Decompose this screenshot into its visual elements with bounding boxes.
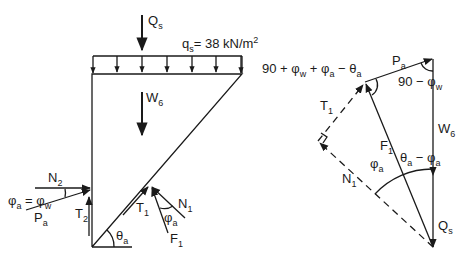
polygon-bottom-angle-label: θa − φa (400, 150, 441, 168)
polygon-friction-label: φa (370, 156, 383, 174)
weight-label: W6 (146, 90, 163, 108)
wall-shear-label: T2 (75, 206, 88, 224)
slip-plane-angle-label: θa (116, 228, 128, 246)
slip-normal-label: N1 (178, 196, 192, 214)
slip-resultant-label: F1 (170, 231, 183, 249)
distributed-load-label: qs= 38 kN/m2 (182, 35, 258, 54)
polygon-slip-shear (318, 85, 363, 141)
wall-friction-arc (65, 189, 66, 197)
bottom-angle-arc (375, 169, 433, 194)
wedge-force-diagram: Qs qs= 38 kN/m2 W6 N2 Pa φa = φw (0, 0, 470, 262)
top-left-angle-label: 90 + φw + φa − θa (262, 61, 362, 79)
polygon-surcharge-label: Qs (438, 218, 453, 236)
wall-normal-label: N2 (48, 170, 62, 188)
distributed-load-block (93, 56, 242, 73)
slip-friction-arc (160, 206, 173, 209)
polygon-slip-resultant-label: F1 (380, 138, 393, 156)
top-right-angle-arc (421, 63, 433, 71)
slip-friction-label: φa (164, 210, 177, 228)
top-right-angle-label: 90 − φw (398, 74, 443, 92)
polygon-weight-label: W6 (438, 121, 455, 139)
slip-shear-label: T1 (136, 200, 149, 218)
polygon-slip-shear-label: T1 (320, 98, 333, 116)
polygon-slip-normal-label: N1 (342, 171, 356, 189)
surcharge-label: Qs (148, 13, 163, 31)
right-angle-mark (321, 133, 327, 143)
soil-wedge: Qs qs= 38 kN/m2 W6 N2 Pa φa = φw (8, 13, 258, 249)
slip-plane-angle-arc (107, 230, 114, 247)
force-polygon: Pa W6 Qs F1 N1 T1 90 + φw + φa − θa 90 −… (262, 53, 455, 247)
active-force-label: Pa (34, 210, 48, 228)
polygon-active-force-label: Pa (392, 53, 406, 71)
top-left-angle-arc (372, 79, 378, 95)
